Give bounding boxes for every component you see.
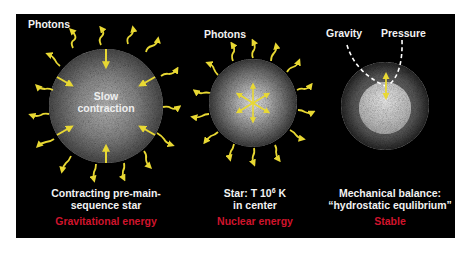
nuclear-energy-label: Nuclear energy [200, 215, 310, 227]
temperature-prefix: Star: T 10 [224, 187, 272, 199]
pre-main-sequence-caption: Contracting pre-main- sequence star [36, 187, 176, 211]
caption-right-line2: “hydrostatic equlibrium” [325, 199, 455, 211]
stable-label: Stable [325, 215, 455, 227]
gravitational-energy-label: Gravitational energy [36, 215, 176, 227]
caption-left-line2: sequence star [36, 199, 176, 211]
slow-contraction-label: Slow contraction [66, 90, 146, 114]
hydrostatic-caption: Mechanical balance: “hydrostatic equlibr… [325, 187, 455, 211]
slow-contraction-line1: Slow [66, 90, 146, 102]
star-temperature-caption: Star: T 106 K in center [200, 187, 310, 211]
caption-left-line1: Contracting pre-main- [36, 187, 176, 199]
gravity-label: Gravity [326, 27, 362, 39]
photons-label-left: Photons [28, 18, 70, 30]
caption-middle-line2: in center [200, 199, 310, 211]
photons-label-middle: Photons [204, 28, 246, 40]
pressure-label: Pressure [381, 27, 426, 39]
caption-middle-line1: Star: T 106 K [200, 187, 310, 199]
hydrostatic-equilibrium-star [341, 62, 429, 150]
slow-contraction-line2: contraction [66, 102, 146, 114]
caption-right-line1: Mechanical balance: [325, 187, 455, 199]
temperature-unit: K [276, 187, 287, 199]
